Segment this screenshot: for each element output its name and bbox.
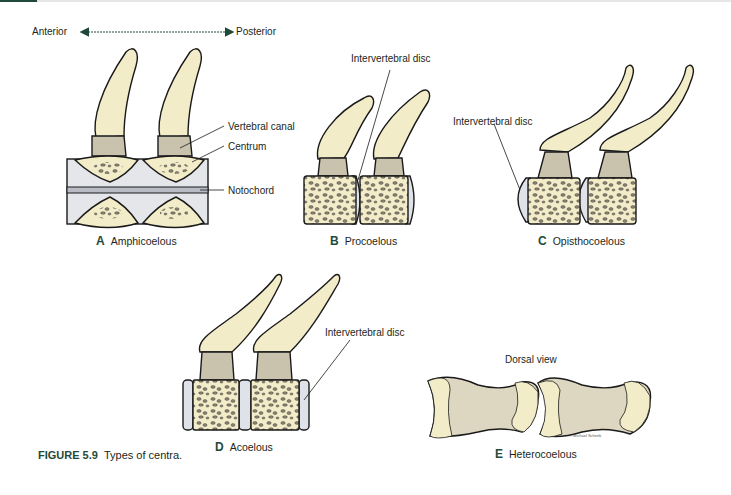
panel-d-letter: D — [215, 440, 224, 454]
panel-a-amphicoelous — [67, 49, 224, 228]
panel-c-caption: COpisthocoelous — [538, 234, 625, 248]
panel-c-disc-label: Intervertebral disc — [453, 116, 532, 127]
panel-e-name: Heterocoelous — [509, 448, 577, 460]
panel-a-caption: AAmphicoelous — [96, 234, 177, 248]
artist-credit: © Michael Schenk — [569, 433, 601, 438]
panel-e-heterocoelous — [428, 377, 651, 438]
panel-c-name: Opisthocoelous — [553, 235, 625, 247]
figure-caption: FIGURE 5.9Types of centra. — [38, 449, 182, 461]
panel-d-caption: DAcoelous — [215, 440, 273, 454]
panel-d-disc-label: Intervertebral disc — [325, 327, 404, 338]
panel-b-caption: BProcoelous — [330, 234, 397, 248]
panel-e-caption: EHeterocoelous — [495, 447, 577, 461]
panel-d-acoelous — [183, 274, 350, 430]
figure-number: FIGURE 5.9 — [38, 449, 98, 461]
panel-a-name: Amphicoelous — [111, 235, 177, 247]
figure-caption-text: Types of centra. — [104, 449, 182, 461]
panel-d-name: Acoelous — [230, 441, 273, 453]
posterior-label: Posterior — [236, 26, 276, 37]
vertebral-canal-label: Vertebral canal — [228, 121, 295, 132]
panel-b-procoelous — [304, 70, 430, 224]
centrum-label: Centrum — [228, 141, 266, 152]
panel-c-opisthocoelous — [494, 65, 693, 224]
notochord-label: Notochord — [228, 185, 274, 196]
panel-a-letter: A — [96, 234, 105, 248]
dorsal-view-label: Dorsal view — [505, 354, 557, 365]
panel-b-name: Procoelous — [345, 235, 398, 247]
panel-b-letter: B — [330, 234, 339, 248]
anterior-label: Anterior — [32, 26, 67, 37]
panel-c-letter: C — [538, 234, 547, 248]
panel-b-disc-label: Intervertebral disc — [351, 53, 430, 64]
panel-e-letter: E — [495, 447, 503, 461]
